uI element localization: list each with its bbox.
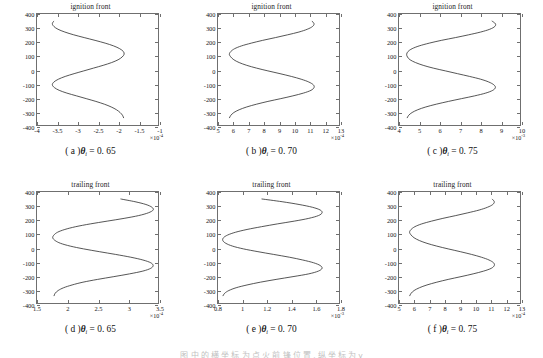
- y-tick-label: 100: [206, 231, 216, 238]
- y-tick-label: 200: [25, 217, 35, 224]
- curve-canvas-a: [37, 14, 158, 125]
- y-tick-label: 0: [31, 245, 34, 252]
- x-tick-top: [522, 192, 523, 195]
- y-tick-label: 300: [387, 25, 397, 32]
- plot-panel-f: trailing front-400-300-200-1000100200300…: [362, 178, 543, 355]
- plot-panel-b: ignition front-400-300-200-1000100200300…: [181, 0, 362, 177]
- plot-panel-e: trailing front-400-300-200-1000100200300…: [181, 178, 362, 355]
- y-tick-label: -200: [385, 273, 397, 280]
- y-tick-label: 0: [31, 67, 34, 74]
- y-tick-label: -100: [204, 259, 216, 266]
- y-tick-label: -100: [23, 259, 35, 266]
- x-tick-label: 11: [488, 305, 494, 312]
- curve-canvas-e: [218, 192, 339, 303]
- x-axis-exponent-base: ×10: [331, 313, 340, 319]
- plot-axes-a: -400-300-200-1000100200300400-4-3.5-3-2.…: [36, 13, 159, 126]
- x-tick-top: [522, 14, 523, 17]
- y-tick-label: 100: [387, 53, 397, 60]
- x-tick-label: -2.5: [93, 127, 103, 134]
- x-tick-top: [341, 14, 342, 17]
- front-curve: [410, 199, 495, 296]
- y-tick-label: -300: [204, 109, 216, 116]
- figure-footnote: 图 中 的 横 坐 标 为 点 火 前 锋 位 置 , 纵 坐 标 为 y: [0, 349, 543, 358]
- curve-canvas-f: [399, 192, 520, 303]
- x-axis-exponent-power: -4: [340, 133, 344, 138]
- x-tick-label: 5: [216, 127, 219, 134]
- x-tick: [341, 300, 342, 303]
- y-tick-label: 100: [25, 231, 35, 238]
- caption-label: ( c ): [427, 146, 442, 156]
- x-tick-label: -2: [116, 127, 121, 134]
- y-tick-label: -100: [204, 81, 216, 88]
- y-tick-label: 400: [387, 11, 397, 18]
- plot-axes-b: -400-300-200-100010020030040056789101112…: [217, 13, 340, 126]
- x-tick-label: 10: [292, 127, 298, 134]
- y-tick-label: 0: [393, 67, 396, 74]
- front-curve: [229, 21, 314, 118]
- y-tick-label: 0: [393, 245, 396, 252]
- x-axis-exponent-base: ×10: [512, 135, 521, 141]
- y-tick-label: -300: [204, 287, 216, 294]
- x-tick-label: 0.8: [214, 305, 222, 312]
- x-tick-label: -4: [34, 127, 39, 134]
- y-tick-label: -400: [23, 124, 35, 131]
- x-tick-label: 10: [473, 305, 479, 312]
- y-tick-label: -200: [385, 95, 397, 102]
- x-tick-label: -3: [75, 127, 80, 134]
- caption-value: = 0. 75: [449, 146, 478, 156]
- y-tick-label: -100: [385, 259, 397, 266]
- y-tick-label: -300: [23, 109, 35, 116]
- x-tick-top: [160, 14, 161, 17]
- x-tick-label: 1.4: [288, 305, 296, 312]
- caption-value: = 0. 70: [268, 324, 297, 334]
- x-tick-label: 9: [500, 127, 503, 134]
- x-tick-label: 7: [459, 127, 462, 134]
- x-axis-exponent: ×10-3: [512, 133, 525, 141]
- caption-value: = 0. 65: [87, 146, 116, 156]
- caption-value: = 0. 65: [87, 324, 116, 334]
- x-tick-label: 5: [397, 305, 400, 312]
- x-tick-top: [341, 192, 342, 195]
- x-axis-exponent-power: -4: [159, 311, 163, 316]
- x-tick-label: 2.5: [95, 305, 103, 312]
- x-tick-label: 1.6: [312, 305, 320, 312]
- x-axis-exponent-base: ×10: [512, 313, 521, 319]
- curve-canvas-c: [399, 14, 520, 125]
- x-axis-exponent: ×10-4: [150, 311, 163, 319]
- x-axis-exponent-power: -4: [521, 311, 525, 316]
- x-tick-label: 3: [128, 305, 131, 312]
- y-tick-label: -200: [23, 95, 35, 102]
- front-curve: [407, 21, 496, 118]
- caption-label: ( f ): [428, 324, 442, 334]
- y-tick-label: 200: [387, 39, 397, 46]
- y-tick-label: 400: [25, 11, 35, 18]
- curve-canvas-d: [37, 192, 158, 303]
- x-tick-label: 11: [307, 127, 313, 134]
- x-tick-label: 2: [66, 305, 69, 312]
- y-tick-label: 0: [212, 67, 215, 74]
- x-axis-exponent-base: ×10: [150, 135, 159, 141]
- x-axis-exponent-power: -3: [340, 311, 344, 316]
- plot-axes-e: -400-300-200-10001002003004000.811.21.41…: [217, 191, 340, 304]
- y-tick-label: 300: [25, 25, 35, 32]
- caption-label: ( d ): [65, 324, 81, 334]
- x-tick-label: 12: [503, 305, 509, 312]
- x-axis-exponent-power: -3: [521, 133, 525, 138]
- caption-label: ( a ): [65, 146, 80, 156]
- x-axis-exponent: ×10-4: [150, 133, 163, 141]
- plot-caption-e: ( e )θi = 0. 70: [181, 324, 362, 335]
- x-axis-exponent: ×10-4: [512, 311, 525, 319]
- y-tick-label: 200: [206, 217, 216, 224]
- plot-caption-c: ( c )θi = 0. 75: [362, 146, 543, 157]
- x-tick-label: 9: [278, 127, 281, 134]
- plot-caption-d: ( d )θi = 0. 65: [0, 324, 181, 335]
- x-tick-label: 4: [397, 127, 400, 134]
- x-axis-exponent-base: ×10: [150, 313, 159, 319]
- y-tick-label: 300: [206, 203, 216, 210]
- plot-axes-f: -400-300-200-100010020030040056789101112…: [398, 191, 521, 304]
- x-axis-exponent-base: ×10: [331, 135, 340, 141]
- y-tick-label: 300: [387, 203, 397, 210]
- x-tick-label: 6: [413, 305, 416, 312]
- y-tick-label: -300: [385, 287, 397, 294]
